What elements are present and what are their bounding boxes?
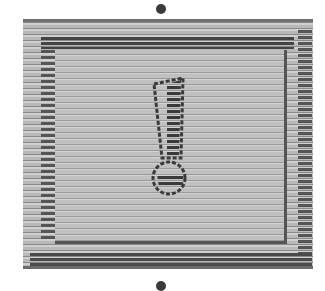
- top-dot: [156, 4, 166, 14]
- panel-bevel-right: [298, 30, 312, 255]
- bottom-dot: [156, 281, 166, 291]
- exclamation-icon: [145, 74, 195, 209]
- panel-bevel-left: [41, 50, 55, 240]
- panel-bevel-top: [41, 37, 294, 49]
- panel-bevel-bottom: [30, 253, 312, 267]
